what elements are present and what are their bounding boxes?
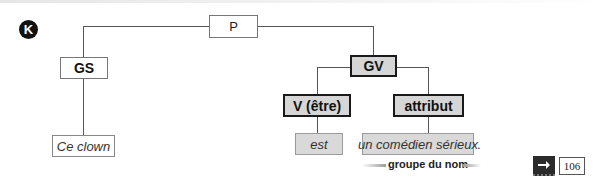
node-gv: GV bbox=[350, 55, 397, 77]
gs-vertical-connector-bottom bbox=[83, 79, 84, 135]
page-reference[interactable]: 106 bbox=[559, 157, 585, 175]
gv-right-branch bbox=[397, 67, 429, 68]
attribute-vertical-connector-top bbox=[428, 67, 429, 94]
gv-left-branch bbox=[317, 67, 350, 68]
node-p: P bbox=[209, 15, 258, 38]
sentence-period: . bbox=[477, 137, 481, 152]
header-rule bbox=[0, 0, 605, 3]
annotation-bar-left bbox=[362, 164, 386, 167]
verb-vertical-connector-bottom bbox=[317, 116, 318, 133]
attribute-vertical-connector-bottom bbox=[428, 116, 429, 133]
verb-vertical-connector-top bbox=[317, 67, 318, 94]
node-attribut: attribut bbox=[393, 94, 464, 117]
gs-vertical-connector-top bbox=[83, 26, 84, 57]
exercise-badge: K bbox=[19, 20, 38, 39]
leaf-un-comedien-serieux: un comédien sérieux bbox=[362, 133, 474, 155]
arrow-right-icon-glyph bbox=[537, 160, 551, 170]
leaf-ce-clown: Ce clown bbox=[52, 135, 115, 157]
annotation-groupe-du-nom: groupe du nom bbox=[388, 158, 468, 170]
annotation-bar-right bbox=[463, 164, 481, 167]
gv-vertical-connector-top bbox=[373, 26, 374, 55]
node-verb-etre: V (être) bbox=[283, 94, 351, 117]
leaf-est: est bbox=[295, 133, 343, 155]
arrow-right-icon[interactable] bbox=[533, 156, 555, 176]
node-gs: GS bbox=[60, 57, 108, 79]
